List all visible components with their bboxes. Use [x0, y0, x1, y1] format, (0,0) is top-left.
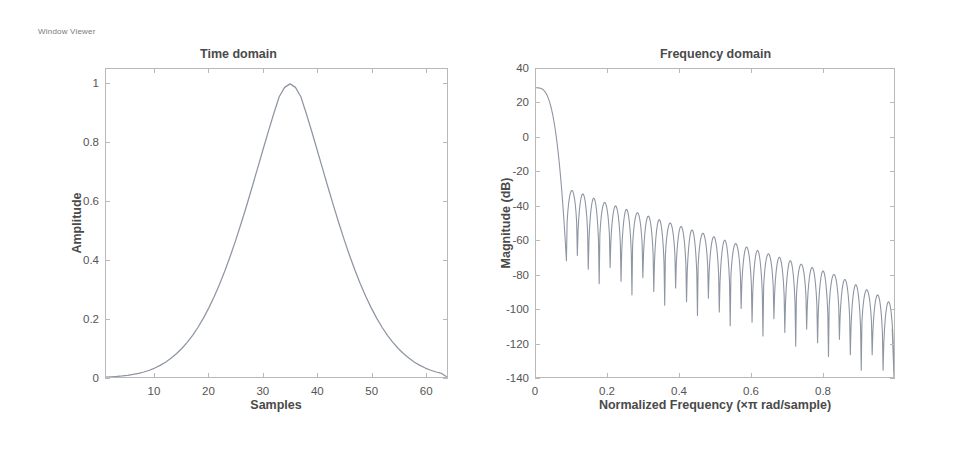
frequency-xtick: [823, 373, 824, 378]
frequency-xtick-label: 0.6: [743, 385, 759, 397]
frequency-ytick: [535, 378, 540, 379]
frequency-ytick: [890, 344, 895, 345]
frequency-domain-ylabel: Magnitude (dB): [499, 178, 513, 269]
frequency-xtick: [823, 68, 824, 73]
frequency-ytick: [535, 309, 540, 310]
time-xtick-label: 30: [256, 385, 269, 397]
frequency-xtick-label: 0.4: [671, 385, 687, 397]
time-xtick-label: 20: [202, 385, 215, 397]
time-ytick: [443, 142, 448, 143]
frequency-domain-plot-area: [536, 69, 894, 377]
time-ytick: [443, 319, 448, 320]
frequency-xtick: [607, 373, 608, 378]
time-xtick: [154, 68, 155, 73]
time-ytick-label: 0.4: [63, 254, 99, 266]
window-curve: [106, 84, 447, 377]
frequency-ytick: [535, 344, 540, 345]
frequency-xtick: [679, 68, 680, 73]
time-xtick: [426, 373, 427, 378]
frequency-xtick-label: 0: [532, 385, 538, 397]
time-domain-plot-area: [106, 69, 447, 377]
frequency-ytick-label: -120: [491, 338, 529, 350]
frequency-ytick: [890, 137, 895, 138]
time-domain-ylabel: Amplitude: [70, 192, 84, 253]
frequency-ytick: [890, 240, 895, 241]
time-domain-xlabel: Samples: [250, 398, 301, 412]
time-xtick: [154, 373, 155, 378]
frequency-xtick: [607, 68, 608, 73]
time-domain-title: Time domain: [0, 47, 477, 61]
frequency-ytick: [890, 171, 895, 172]
time-ytick-label: 1: [63, 77, 99, 89]
time-xtick: [208, 373, 209, 378]
frequency-ytick-label: 40: [491, 62, 529, 74]
time-xtick: [263, 68, 264, 73]
time-ytick: [443, 201, 448, 202]
time-ytick-label: 0: [63, 372, 99, 384]
time-ytick: [443, 83, 448, 84]
time-xtick: [372, 373, 373, 378]
frequency-xtick: [751, 373, 752, 378]
time-xtick-label: 40: [311, 385, 324, 397]
frequency-domain-xlabel: Normalized Frequency (×π rad/sample): [599, 398, 831, 412]
time-ytick: [105, 260, 110, 261]
frequency-ytick: [890, 275, 895, 276]
frequency-domain-axes: [535, 68, 895, 378]
frequency-ytick-label: -80: [491, 269, 529, 281]
time-ytick: [105, 83, 110, 84]
frequency-ytick-label: -20: [491, 165, 529, 177]
frequency-ytick-label: 0: [491, 131, 529, 143]
time-ytick: [443, 260, 448, 261]
frequency-ytick: [535, 240, 540, 241]
frequency-xtick: [751, 68, 752, 73]
time-xtick: [208, 68, 209, 73]
time-ytick: [443, 378, 448, 379]
frequency-domain-panel: Frequency domain 00.20.40.60.840200-20-4…: [477, 0, 954, 454]
frequency-ytick: [535, 275, 540, 276]
time-domain-panel: Time domain 10203040506000.20.40.60.81 S…: [0, 0, 477, 454]
frequency-ytick: [535, 102, 540, 103]
frequency-domain-title: Frequency domain: [477, 47, 954, 61]
frequency-ytick: [535, 137, 540, 138]
time-ytick: [105, 142, 110, 143]
frequency-ytick-label: -140: [491, 372, 529, 384]
frequency-ytick-label: -100: [491, 303, 529, 315]
time-ytick: [105, 378, 110, 379]
frequency-ytick: [890, 206, 895, 207]
frequency-ytick-label: 20: [491, 96, 529, 108]
time-ytick-label: 0.2: [63, 313, 99, 325]
frequency-ytick: [890, 309, 895, 310]
frequency-ytick: [535, 206, 540, 207]
time-ytick: [105, 201, 110, 202]
frequency-ytick: [890, 68, 895, 69]
time-xtick-label: 60: [420, 385, 433, 397]
frequency-ytick: [535, 68, 540, 69]
frequency-ytick: [535, 171, 540, 172]
time-xtick: [426, 68, 427, 73]
time-xtick-label: 50: [365, 385, 378, 397]
frequency-xtick: [679, 373, 680, 378]
time-ytick-label: 0.8: [63, 136, 99, 148]
time-xtick: [263, 373, 264, 378]
frequency-ytick: [890, 378, 895, 379]
time-ytick: [105, 319, 110, 320]
frequency-ytick: [890, 102, 895, 103]
frequency-xtick-label: 0.8: [815, 385, 831, 397]
time-xtick-label: 10: [148, 385, 161, 397]
time-xtick: [317, 68, 318, 73]
time-xtick: [372, 68, 373, 73]
time-domain-axes: [105, 68, 448, 378]
time-xtick: [317, 373, 318, 378]
frequency-xtick-label: 0.2: [599, 385, 615, 397]
magnitude-response-curve: [536, 88, 894, 377]
